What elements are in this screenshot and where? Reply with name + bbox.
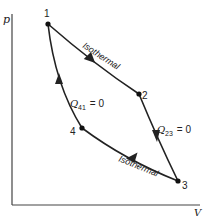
- point-2: [136, 91, 141, 96]
- process-4-1-curve: [48, 24, 82, 128]
- svg-text:= 0: = 0: [87, 98, 104, 109]
- svg-text:Q: Q: [157, 124, 165, 135]
- svg-text:23: 23: [165, 130, 173, 137]
- arrow-4-1-icon: [55, 73, 63, 84]
- point-4: [79, 125, 84, 130]
- pv-diagram: p V 1 2 3 4 Isothermal Isothermal Q 23 =…: [0, 0, 208, 217]
- process-4-1-label: Q 41 = 0: [70, 98, 104, 111]
- svg-text:Q: Q: [70, 98, 78, 109]
- process-2-3-label: Q 23 = 0: [157, 124, 191, 137]
- process-3-4-curve: [82, 128, 178, 181]
- process-3-4-label: Isothermal: [117, 154, 161, 179]
- y-axis-label: p: [3, 13, 10, 26]
- point-4-label: 4: [70, 126, 76, 137]
- point-2-label: 2: [142, 90, 148, 101]
- point-1-label: 1: [44, 8, 50, 19]
- point-3-label: 3: [182, 180, 188, 191]
- svg-text:= 0: = 0: [174, 124, 191, 135]
- point-3: [175, 178, 180, 183]
- svg-text:41: 41: [78, 104, 86, 111]
- point-1: [45, 21, 50, 26]
- x-axis-label: V: [194, 207, 203, 217]
